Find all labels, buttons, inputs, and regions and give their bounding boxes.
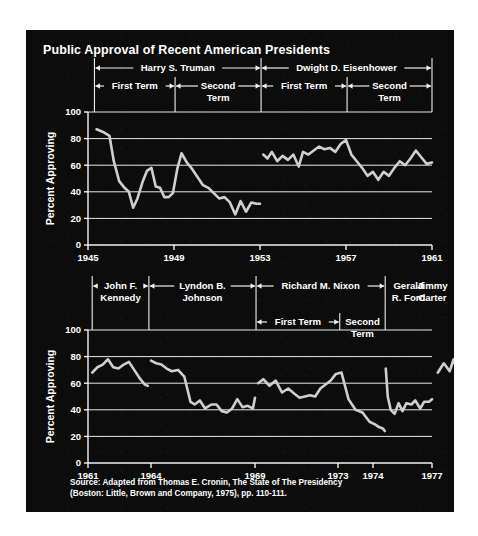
y-tick-label-0: 0	[76, 457, 81, 468]
data-line-ford-approval	[386, 369, 432, 414]
x-tick-label-1945: 1945	[77, 252, 99, 263]
admin-harry-s-truman-term-0-arrow-left	[95, 83, 100, 89]
admin-richard-m-nixon-term-0-arrow-left	[257, 319, 262, 325]
data-line-kennedy-approval	[92, 359, 148, 386]
admin-richard-m-nixon-term-1-label: Second	[345, 316, 380, 327]
admin-jimmy-carter-label: Carter	[418, 292, 447, 303]
admin-dwight-d-eisenhower-arrow-left	[262, 65, 267, 71]
admin-harry-s-truman-term-1-label: Term	[207, 92, 230, 103]
data-line-nixon-approval	[258, 373, 385, 432]
y-tick-label-20: 20	[70, 431, 81, 442]
y-tick-label-100: 100	[65, 106, 81, 117]
source-citation: Source: Adapted from Thomas E. Cronin, T…	[70, 478, 342, 499]
admin-dwight-d-eisenhower-label: Dwight D. Eisenhower	[296, 62, 397, 73]
admin-dwight-d-eisenhower-term-1-arrow-left	[348, 83, 353, 89]
y-tick-label-20: 20	[70, 213, 81, 224]
chart-kennedy-carter-header: John F.KennedyLyndon B.JohnsonRichard M.…	[92, 276, 448, 339]
admin-richard-m-nixon-term-0-arrow-right	[334, 319, 339, 325]
admin-harry-s-truman-term-1: SecondTerm	[176, 80, 260, 102]
admin-lyndon-b-johnson-arrow-left	[150, 283, 155, 289]
y-tick-label-100: 100	[65, 324, 81, 335]
chart-panel: Public Approval of Recent American Presi…	[26, 30, 454, 512]
y-tick-label-60: 60	[70, 378, 81, 389]
admin-richard-m-nixon-label: Richard M. Nixon	[281, 280, 359, 291]
admin-harry-s-truman-term-1-arrow-right	[256, 83, 261, 89]
y-tick-label-40: 40	[70, 186, 81, 197]
admin-harry-s-truman-term-0-arrow-right	[170, 83, 175, 89]
admin-lyndon-b-johnson: Lyndon B.Johnson	[150, 280, 255, 302]
admin-john-f-kennedy-arrow-right	[143, 283, 148, 289]
admin-dwight-d-eisenhower-arrow-right	[427, 65, 432, 71]
data-line-johnson-approval	[151, 361, 255, 413]
charts-svg: 02040608010019451949195319571961Percent …	[26, 30, 454, 512]
x-tick-label-1949: 1949	[163, 252, 184, 263]
admin-richard-m-nixon-arrow-left	[257, 283, 262, 289]
chart-truman-eisenhower-header: Harry S. TrumanFirst TermSecondTermDwigh…	[94, 58, 432, 112]
data-line-carter-approval	[438, 359, 454, 384]
y-axis-label: Percent Approving	[44, 132, 56, 226]
admin-richard-m-nixon-term-0: First Term	[257, 316, 339, 327]
admin-lyndon-b-johnson-label: Johnson	[182, 292, 222, 303]
admin-dwight-d-eisenhower-term-0-arrow-left	[262, 83, 267, 89]
admin-richard-m-nixon-term-0-label: First Term	[275, 316, 321, 327]
admin-harry-s-truman-term-0: First Term	[95, 80, 174, 91]
admin-dwight-d-eisenhower-term-0-label: First Term	[281, 80, 327, 91]
admin-harry-s-truman: Harry S. Truman	[95, 62, 260, 73]
admin-dwight-d-eisenhower-term-1-arrow-right	[427, 83, 432, 89]
admin-lyndon-b-johnson-label: Lyndon B.	[179, 280, 226, 291]
admin-harry-s-truman-term-0-label: First Term	[112, 80, 158, 91]
chart-kennedy-carter: 020406080100196119641969197319741977Perc…	[44, 324, 454, 481]
admin-richard-m-nixon-arrow-right	[380, 283, 385, 289]
admin-dwight-d-eisenhower-term-1-label: Second	[372, 80, 407, 91]
figure-root: Public Approval of Recent American Presi…	[0, 0, 478, 536]
admin-harry-s-truman-term-1-arrow-left	[176, 83, 181, 89]
admin-jimmy-carter-label: Jimmy	[417, 280, 448, 291]
data-line-truman-approval	[97, 129, 260, 214]
x-tick-label-1957: 1957	[335, 252, 356, 263]
admin-richard-m-nixon-term-1: SecondTerm	[345, 316, 380, 338]
admin-john-f-kennedy-label: Kennedy	[100, 292, 141, 303]
x-tick-label-1953: 1953	[249, 252, 270, 263]
admin-jimmy-carter: JimmyCarter	[417, 280, 448, 302]
x-tick-label-1961: 1961	[421, 252, 443, 263]
admin-john-f-kennedy: John F.Kennedy	[93, 280, 148, 302]
x-tick-label-1974: 1974	[362, 470, 384, 481]
admin-harry-s-truman-label: Harry S. Truman	[141, 62, 215, 73]
admin-harry-s-truman-arrow-left	[95, 65, 100, 71]
admin-dwight-d-eisenhower-term-1-label: Term	[378, 92, 401, 103]
admin-richard-m-nixon-term-1-label: Term	[351, 328, 374, 339]
admin-harry-s-truman-arrow-right	[256, 65, 261, 71]
admin-dwight-d-eisenhower-term-0-arrow-right	[342, 83, 347, 89]
y-tick-label-40: 40	[70, 404, 81, 415]
admin-dwight-d-eisenhower-term-0: First Term	[262, 80, 346, 91]
chart-truman-eisenhower: 02040608010019451949195319571961Percent …	[44, 106, 443, 263]
data-line-eisenhower-approval	[263, 140, 432, 180]
admin-john-f-kennedy-label: John F.	[104, 280, 137, 291]
y-tick-label-80: 80	[70, 133, 81, 144]
y-axis-label: Percent Approving	[44, 350, 56, 444]
admin-dwight-d-eisenhower-term-1: SecondTerm	[348, 80, 431, 102]
y-tick-label-60: 60	[70, 160, 81, 171]
admin-john-f-kennedy-arrow-left	[93, 283, 98, 289]
admin-dwight-d-eisenhower: Dwight D. Eisenhower	[262, 62, 431, 73]
x-tick-label-1977: 1977	[421, 470, 442, 481]
admin-richard-m-nixon: Richard M. Nixon	[257, 280, 384, 291]
y-tick-label-0: 0	[76, 239, 81, 250]
y-tick-label-80: 80	[70, 351, 81, 362]
admin-harry-s-truman-term-1-label: Second	[201, 80, 236, 91]
admin-lyndon-b-johnson-arrow-right	[251, 283, 256, 289]
